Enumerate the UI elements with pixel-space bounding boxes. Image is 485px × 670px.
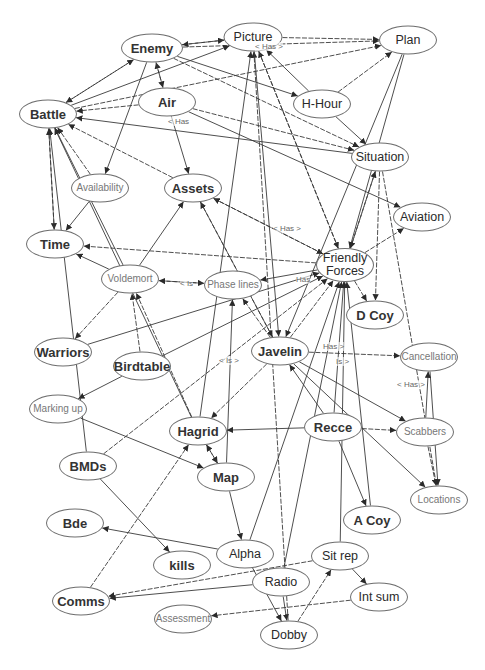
edge-radio-to-comms [109,585,252,599]
node-alpha[interactable]: Alpha [216,540,274,569]
node-situation[interactable]: Situation [351,143,409,172]
node-voldemort[interactable]: Voldemort [101,265,159,294]
edge-label: Has [296,275,310,284]
edge-recce-to-hagrid [227,428,304,430]
edge-assets-to-javelin [200,202,272,337]
edge-friendly-forces-to-time [84,246,317,263]
edge-availability-to-time [66,201,89,230]
node-sit-rep[interactable]: Sit rep [311,542,369,571]
node-bde[interactable]: Bde [46,509,104,538]
edge-label: < Has > [397,380,425,389]
edge-birdtable-to-marking-up [78,376,121,398]
edge-label: Is > [336,357,349,366]
edge-voldemort-to-warriors [75,292,118,339]
edge-friendly-forces-to-aviation [365,228,404,252]
node-kills[interactable]: kills [153,551,211,580]
edge-layer [0,0,485,670]
node-assets[interactable]: Assets [164,174,222,203]
node-birdtable[interactable]: Birdtable [113,352,171,381]
node-warriors[interactable]: Warriors [34,338,92,367]
node-hagrid[interactable]: Hagrid [169,417,227,446]
edge-picture-to-javelin [254,51,279,336]
node-time[interactable]: Time [26,230,84,259]
edge-recce-to-a-coy [339,441,366,506]
edge-voldemort-to-assets [139,202,183,266]
edge-enemy-to-availability [105,62,146,173]
node-d-coy[interactable]: D Coy [346,301,404,330]
node-radio[interactable]: Radio [252,568,310,597]
node-phase-lines[interactable]: Phase lines [204,271,262,300]
edge-label: < Has > [273,224,301,233]
node-aviation[interactable]: Aviation [393,203,451,232]
node-javelin[interactable]: Javelin [251,337,309,366]
edge-scabbers-to-locations [428,446,436,485]
edge-label: < Is > [219,356,239,365]
edge-enemy-to-air [156,62,163,87]
node-availability[interactable]: Availability [71,174,129,203]
node-map[interactable]: Map [197,463,255,492]
node-recce[interactable]: Recce [304,413,362,442]
node-int-sum[interactable]: Int sum [350,583,408,612]
node-marking-up[interactable]: Marking up [29,395,87,424]
node-comms[interactable]: Comms [52,587,110,616]
node-bmds[interactable]: BMDs [59,452,117,481]
edge-birdtable-to-voldemort [132,293,140,351]
node-scabbers[interactable]: Scabbers [396,418,454,447]
edge-scabbers-to-cancellation [426,371,428,417]
node-h-hour[interactable]: H-Hour [293,90,351,119]
edge-battle-to-enemy [66,60,134,103]
node-battle[interactable]: Battle [19,100,77,129]
edge-map-to-alpha [230,491,242,539]
node-locations[interactable]: Locations [410,486,468,515]
edge-h-hour-to-situation [336,117,366,145]
edge-int-sum-to-assessment [211,600,350,616]
edge-label: Has > [323,342,344,351]
node-friendly-forces[interactable]: Friendly Forces [316,248,374,282]
edge-picture-to-plan [282,38,379,40]
node-assessment[interactable]: Assessment [154,605,212,634]
node-cancellation[interactable]: Cancellation [400,343,458,372]
node-plan[interactable]: Plan [379,26,437,55]
edge-situation-to-d-coy [375,171,379,300]
edge-label: < Is [180,279,193,288]
edge-javelin-to-hagrid [211,364,267,418]
edge-label: < Has [168,117,189,126]
edge-alpha-to-bde [102,528,218,549]
edge-h-hour-to-plan [338,52,392,92]
edge-label: < Has > [255,42,283,51]
node-enemy[interactable]: Enemy [121,34,183,63]
edge-enemy-to-h-hour [177,56,297,96]
node-dobby[interactable]: Dobby [260,621,318,650]
edge-friendly-forces-to-d-coy [355,281,367,301]
edge-radio-to-dobby [283,596,287,620]
node-a-coy[interactable]: A Coy [343,506,401,535]
edge-voldemort-to-time [76,254,109,269]
node-air[interactable]: Air [138,88,196,117]
edge-bmds-to-kills [100,479,169,552]
edge-sit-rep-to-int-sum [352,569,366,584]
edge-recce-to-scabbers [362,429,396,431]
